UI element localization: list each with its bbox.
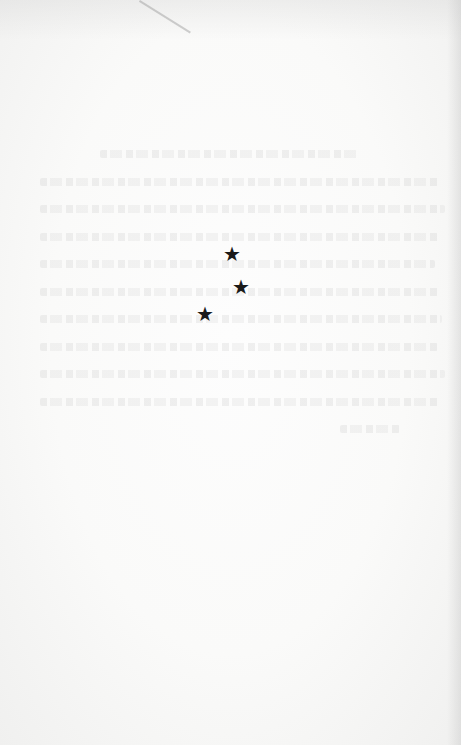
asterism-star-icon: ★ bbox=[223, 244, 241, 264]
ghost-line bbox=[40, 178, 440, 186]
ghost-line bbox=[40, 343, 438, 351]
ghost-line bbox=[40, 398, 440, 406]
ghost-line bbox=[40, 315, 442, 323]
ghost-line bbox=[40, 233, 440, 241]
ghost-line bbox=[40, 370, 445, 378]
ghost-line bbox=[100, 150, 360, 158]
asterism-star-icon: ★ bbox=[232, 277, 250, 297]
page-top-shadow bbox=[0, 0, 461, 40]
book-page: ★ ★ ★ bbox=[0, 0, 461, 745]
asterism-star-icon: ★ bbox=[196, 304, 214, 324]
ghost-line bbox=[340, 425, 400, 433]
ghost-line bbox=[40, 205, 445, 213]
show-through-text bbox=[40, 150, 450, 453]
